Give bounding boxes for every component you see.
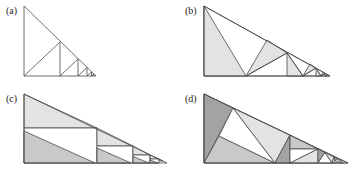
panel-a-label: (a) xyxy=(6,5,17,17)
panel-b: (b) xyxy=(185,5,330,76)
panel-d: (d) xyxy=(185,93,348,163)
panel-b-label: (b) xyxy=(185,5,197,17)
panel-c: (c) xyxy=(6,93,167,163)
panel-d-label: (d) xyxy=(185,93,197,105)
shaded-triangle xyxy=(97,128,133,146)
figure: (a) (b) (c) xyxy=(0,0,350,170)
panel-c-label: (c) xyxy=(6,93,17,105)
panel-a: (a) xyxy=(6,5,96,76)
